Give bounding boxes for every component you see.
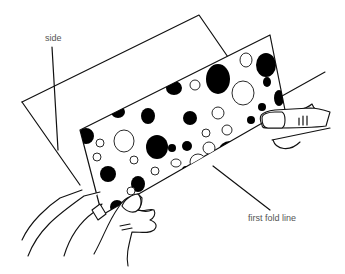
side-label: side [45, 33, 62, 43]
fold-line-leader [213, 166, 270, 210]
left-hand [22, 190, 156, 266]
first-fold-line-label: first fold line [248, 213, 296, 223]
